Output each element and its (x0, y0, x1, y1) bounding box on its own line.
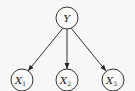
edge-y-x3 (71, 28, 106, 71)
node-x1: X1 (11, 69, 33, 91)
node-x2: X2 (56, 69, 78, 91)
node-y: Y (56, 7, 78, 29)
node-x3: X3 (102, 69, 124, 91)
bayes-network-diagram: Y X1 X2 X3 (0, 0, 135, 91)
edge-y-x1 (28, 28, 63, 71)
